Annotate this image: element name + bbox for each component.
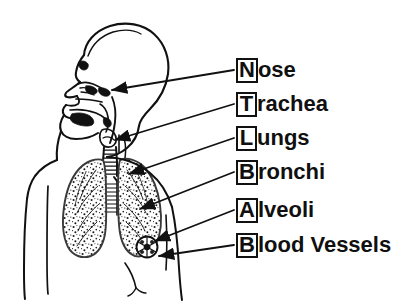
- anatomy-illustration: [0, 0, 414, 306]
- respiratory-system-figure: N ose T rachea L ungs B ronchi A lveoli …: [0, 0, 414, 306]
- alveoli-cluster: [137, 237, 158, 258]
- label-text-trachea: rachea: [257, 93, 328, 115]
- label-key-letter-bronchi: B: [239, 161, 255, 183]
- label-bronchi[interactable]: B ronchi: [236, 159, 325, 185]
- label-text-lungs: ungs: [257, 127, 310, 149]
- label-text-blood-vessels: lood Vessels: [258, 234, 391, 256]
- nasal-cavity: [76, 83, 110, 103]
- label-text-nose: ose: [258, 59, 296, 81]
- label-blood-vessels[interactable]: B lood Vessels: [236, 232, 391, 258]
- left-lung: [63, 159, 106, 257]
- label-alveoli[interactable]: A lveoli: [236, 197, 314, 223]
- leader-line-blood-vessels: [159, 245, 234, 256]
- label-key-box-nose: N: [236, 58, 258, 83]
- leader-line-lungs: [129, 138, 234, 174]
- label-key-letter-nose: N: [239, 59, 255, 81]
- label-key-letter-blood-vessels: B: [239, 234, 255, 256]
- label-key-letter-alveoli: A: [239, 199, 255, 221]
- label-text-bronchi: ronchi: [258, 161, 325, 183]
- head-profile-outline: [57, 24, 169, 160]
- label-key-box-bronchi: B: [236, 160, 258, 185]
- leader-line-nose: [112, 70, 234, 90]
- label-key-box-lungs: L: [236, 126, 257, 151]
- leader-line-trachea: [115, 104, 234, 140]
- label-lungs[interactable]: L ungs: [236, 125, 310, 151]
- label-key-letter-trachea: T: [240, 93, 253, 115]
- label-key-letter-lungs: L: [240, 127, 253, 149]
- larynx: [100, 129, 117, 147]
- label-key-box-blood-vessels: B: [236, 233, 258, 258]
- label-trachea[interactable]: T rachea: [236, 91, 328, 117]
- label-key-box-trachea: T: [236, 92, 257, 117]
- label-text-alveoli: lveoli: [258, 199, 314, 221]
- label-nose[interactable]: N ose: [236, 57, 296, 83]
- label-key-box-alveoli: A: [236, 198, 258, 223]
